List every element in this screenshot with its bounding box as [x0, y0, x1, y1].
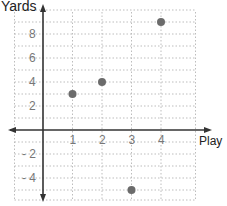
x-tick-label: 1 [70, 134, 77, 146]
y-axis-up-arrow-icon [40, 4, 46, 12]
y-tick-label: 6 [29, 52, 36, 64]
x-axis-label: Play [199, 134, 222, 148]
y-axis-label: Yards [1, 0, 37, 14]
y-tick-label: - 4 [22, 172, 36, 184]
y-tick-label: - 2 [22, 148, 36, 160]
y-tick-label: 8 [29, 28, 36, 40]
x-tick-label: 3 [129, 134, 136, 146]
x-tick-label: 2 [99, 134, 106, 146]
y-tick-label: 4 [29, 76, 36, 88]
x-axis-left-arrow-icon [8, 127, 16, 133]
data-point [128, 186, 136, 194]
data-point [157, 18, 165, 26]
x-axis-right-arrow-icon [204, 127, 212, 133]
y-tick-label: 2 [29, 100, 36, 112]
y-axis-down-arrow-icon [40, 194, 46, 202]
data-point [98, 78, 106, 86]
data-point [69, 90, 77, 98]
x-tick-label: 4 [158, 134, 165, 146]
